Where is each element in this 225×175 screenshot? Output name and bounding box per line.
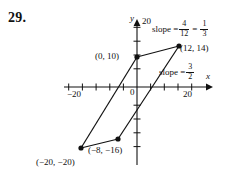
y-tick-label-20: 20 — [142, 17, 151, 26]
parallelogram-edges — [81, 46, 179, 148]
slope-side-text: slope = — [159, 67, 185, 77]
slope-annotation-side: slope = 3 2 — [159, 63, 195, 81]
x-tick-label-neg20: −20 — [67, 90, 81, 99]
slope-top-equals: = — [192, 24, 197, 34]
edge-bottomright-to-topright — [118, 46, 179, 139]
slope-side-numerator: 3 — [187, 63, 193, 71]
slope-top-denominator-2: 3 — [201, 30, 207, 38]
point-label-neg8-neg16: (−8, −16) — [88, 146, 122, 155]
x-tick-label-20: 20 — [183, 90, 192, 99]
slope-side-fraction-1: 3 2 — [186, 63, 194, 81]
edge-bottomleft-to-topleft — [81, 57, 137, 148]
vertex-markers — [78, 43, 181, 150]
point-label-0-10: (0, 10) — [95, 52, 119, 61]
point-label-neg20-neg20: (−20, −20) — [36, 158, 75, 167]
vertex-0-10 — [134, 54, 139, 59]
slope-top-fraction-1: 4 12 — [179, 20, 189, 38]
slope-top-text: slope = — [152, 24, 178, 34]
slope-top-fraction-2: 1 3 — [200, 20, 208, 38]
figure-canvas: 29. — [0, 0, 225, 175]
y-axis-label: y — [130, 14, 134, 23]
vertex-neg8-16 — [115, 136, 120, 141]
slope-side-denominator: 2 — [187, 73, 193, 81]
point-label-12-14: (12, 14) — [180, 44, 209, 53]
y-axis-arrowhead — [134, 19, 141, 26]
slope-top-numerator-2: 1 — [201, 20, 207, 28]
x-axis-label: x — [206, 72, 210, 81]
slope-top-numerator-1: 4 — [181, 20, 187, 28]
slope-top-denominator-1: 12 — [179, 30, 189, 38]
vertex-neg20-20 — [78, 145, 83, 150]
origin-tick-label: 0 — [130, 88, 135, 97]
slope-annotation-top: slope = 4 12 = 1 3 — [152, 20, 209, 38]
x-axis-arrowhead — [206, 84, 213, 91]
